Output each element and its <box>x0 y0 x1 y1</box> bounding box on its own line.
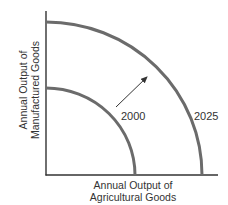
y-axis-label-line2: Manufactured Goods <box>29 41 41 139</box>
curve-label-2000: 2000 <box>121 110 145 122</box>
ppf-diagram: 2000 2025 Annual Output of Agricultural … <box>0 0 228 205</box>
x-axis-label-line2: Agricultural Goods <box>90 191 176 203</box>
x-axis-label-line1: Annual Output of <box>94 179 173 191</box>
shift-arrow-icon <box>116 77 147 107</box>
curve-label-2025: 2025 <box>194 110 218 122</box>
ppf-curve-2025 <box>46 22 202 175</box>
y-axis-label-line1: Annual Output of <box>17 51 29 130</box>
